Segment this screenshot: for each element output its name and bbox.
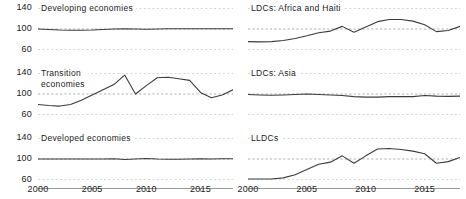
x-tick-label-2000: 2000: [233, 184, 263, 194]
panel-title-developed-economies: Developed economies: [41, 133, 134, 144]
y-tick-label-r2-100: 100: [6, 153, 32, 163]
y-tick-label-r1-60: 60: [6, 109, 32, 119]
y-tick-label-r0-100: 100: [6, 23, 32, 33]
y-tick-label-r1-100: 100: [6, 88, 32, 98]
panel-ldcs-africa-and-haiti: [248, 8, 460, 50]
panel-lldcs: [248, 138, 460, 180]
y-tick-label-r1-140: 140: [6, 67, 32, 77]
plot-area-ldcs-africa-and-haiti: [248, 8, 460, 50]
x-tick-label-2010: 2010: [351, 184, 381, 194]
plot-area-ldcs-asia: [248, 73, 460, 115]
x-tick-label-2000: 2000: [23, 184, 53, 194]
x-tick-label-2015: 2015: [410, 184, 440, 194]
series-line-lldcs: [248, 149, 460, 179]
x-tick-label-2005: 2005: [77, 184, 107, 194]
y-tick-label-r2-140: 140: [6, 132, 32, 142]
panel-title-transition-economies: Transition economies: [41, 68, 88, 89]
y-tick-label-r2-60: 60: [6, 174, 32, 184]
y-tick-label-r0-140: 140: [6, 2, 32, 12]
plot-area-developing-economies: [38, 8, 233, 50]
series-line-ldcs-asia: [248, 94, 460, 97]
panel-developing-economies: [38, 8, 233, 50]
panel-title-lldcs: LLDCs: [251, 133, 281, 144]
panel-ldcs-asia: [248, 73, 460, 115]
panel-title-ldcs-asia: LDCs: Asia: [251, 68, 299, 79]
panel-developed-economies: [38, 138, 233, 180]
series-line-ldcs-africa-and-haiti: [248, 20, 460, 42]
x-tick-label-2010: 2010: [131, 184, 161, 194]
y-tick-label-r0-60: 60: [6, 44, 32, 54]
plot-area-lldcs: [248, 138, 460, 180]
series-line-developing-economies: [38, 29, 233, 31]
plot-area-developed-economies: [38, 138, 233, 180]
x-tick-label-2005: 2005: [292, 184, 322, 194]
panel-title-ldcs-africa-and-haiti: LDCs: Africa and Haiti: [251, 3, 344, 14]
x-tick-label-2015: 2015: [186, 184, 216, 194]
small-multiples-figure: Developing economiesLDCs: Africa and Hai…: [0, 0, 466, 199]
panel-title-developing-economies: Developing economies: [41, 3, 136, 14]
series-line-developed-economies: [38, 158, 233, 159]
